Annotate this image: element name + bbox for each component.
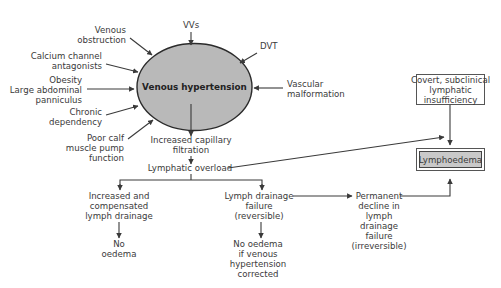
cause-label-line: antagonists [52,61,103,71]
venous-hypertension-node: Venous hypertension [137,44,252,131]
no-oedema-node: No oedema [102,239,137,259]
node-label-line: filtration [173,145,209,155]
node-label-line: Increased and [89,191,150,201]
lymphoedema-box: Lymphoedema [417,149,485,171]
cause-label-line: Calcium channel [31,51,102,61]
node-label-line: (irreversible) [351,241,406,251]
node-label-line: No [113,239,125,249]
cause-label-line: Obesity [49,75,82,85]
cause-label-line: Venous [95,25,127,35]
no-oedema-if-corrected-node: No oedema if venous hypertension correct… [230,239,286,279]
cause-dvt: DVT [240,41,278,63]
cause-label-line: dependency [49,117,102,127]
node-label-line: decline in [358,201,400,211]
arrow-icon [400,179,450,196]
box-label-line: lymphatic [429,85,472,95]
node-label-line: if venous [238,249,278,259]
center-label: Venous hypertension [142,82,247,92]
node-label-line: corrected [238,269,279,279]
arrow-icon [128,120,153,139]
drainage-failure-reversible-node: Lymph drainage failure (reversible) [224,191,293,221]
compensated-drainage-node: Increased and compensated lymph drainage [85,191,153,221]
cause-calcium-channel-antagonists: Calcium channel antagonists [31,51,138,72]
box-label-line: Covert, subclinical [411,75,490,85]
node-label-line: No oedema [233,239,282,249]
cause-label-line: obstruction [77,35,126,45]
box-label-line: insufficiency [424,95,478,105]
node-label-line: Permanent [356,191,403,201]
cause-label-line: Chronic [69,107,102,117]
cause-chronic-dependency: Chronic dependency [49,106,138,127]
arrow-icon [106,106,138,115]
arrow-icon [106,64,138,72]
cause-label-line: muscle pump [66,143,124,153]
node-label-line: lymph drainage [85,211,153,221]
node-label-line: (reversible) [234,211,283,221]
cause-vascular-malformation: Vascular malformation [254,79,345,99]
arrow-icon [240,53,257,63]
node-label-line: compensated [90,201,148,211]
node-label-line: hypertension [230,259,286,269]
increased-capillary-filtration-node: Increased capillary filtration [150,135,231,155]
venous-hypertension-lymphoedema-diagram: Venous hypertension VVs DVT Venous obstr… [0,0,501,288]
permanent-decline-node: Permanent decline in lymph drainage fail… [351,191,406,251]
node-label-line: failure [245,201,272,211]
arrow-icon [130,38,152,55]
cause-label-line: panniculus [36,95,83,105]
cause-label-line: Vascular [287,79,324,89]
cause-label-line: Large abdominal [10,85,82,95]
cause-vvs: VVs [183,20,200,45]
covert-subclinical-insufficiency-box: Covert, subclinical lymphatic insufficie… [411,75,490,106]
node-label-line: failure [365,231,392,241]
node-label-line: Increased capillary [150,135,231,145]
lymphatic-overload-node: Lymphatic overload [148,163,232,173]
arrow-icon [228,137,444,168]
node-label-line: oedema [102,249,137,259]
cause-label-line: function [89,153,124,163]
cause-label: DVT [260,41,278,51]
cause-label-line: malformation [287,89,345,99]
branch-connector [120,180,262,187]
lymphoedema-label: Lymphoedema [419,155,482,165]
node-label: Lymphatic overload [148,163,232,173]
node-label-line: lymph [366,211,393,221]
node-label-line: Lymph drainage [224,191,293,201]
cause-obesity: Obesity Large abdominal panniculus [10,75,134,105]
node-label-line: drainage [360,221,398,231]
cause-label-line: Poor calf [87,133,125,143]
cause-label: VVs [183,20,200,30]
